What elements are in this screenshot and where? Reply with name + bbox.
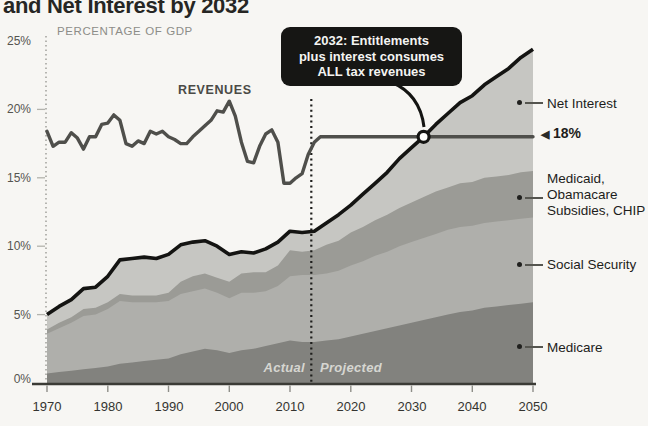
x-tick-label: 1990 [149, 399, 189, 414]
actual-label: Actual [247, 360, 305, 375]
projected-label: Projected [320, 360, 382, 375]
rate-marker-18: ◀18% [541, 125, 581, 141]
x-tick-label: 2020 [331, 399, 371, 414]
y-tick-label: 10% [0, 239, 31, 253]
rate-marker-value: 18% [553, 125, 581, 141]
leader-dot-icon [517, 195, 522, 200]
leader-line [525, 264, 543, 266]
x-tick-label: 1970 [27, 399, 67, 414]
y-tick-label: 0% [0, 372, 31, 386]
revenues-series-label: REVENUES [178, 83, 252, 97]
leader-line [525, 197, 543, 199]
y-tick-label: 15% [0, 171, 31, 185]
x-tick-label: 2040 [452, 399, 492, 414]
leader-dot-icon [517, 262, 522, 267]
budget-chart-figure: and Net Interest by 2032 PERCENTAGE OF G… [0, 0, 648, 426]
callout-2032: 2032: Entitlements plus interest consume… [281, 27, 462, 86]
x-tick-label: 2030 [392, 399, 432, 414]
legend-medicaid: Medicaid, Obamacare Subsidies, CHIP [547, 171, 645, 219]
y-tick-label: 20% [0, 102, 31, 116]
axis-unit-label: PERCENTAGE OF GDP [57, 25, 193, 37]
x-tick-label: 2050 [513, 399, 553, 414]
left-arrow-icon: ◀ [541, 128, 549, 140]
social-security-leader [517, 262, 545, 268]
net-interest-leader [517, 100, 545, 106]
x-tick-label: 1980 [88, 399, 128, 414]
chart-title: and Net Interest by 2032 [3, 0, 249, 19]
y-tick-label: 5% [0, 308, 31, 322]
leader-dot-icon [517, 344, 522, 349]
y-tick-label: 25% [0, 34, 31, 48]
x-tick-label: 2010 [270, 399, 310, 414]
medicare-leader [517, 344, 545, 350]
legend-social-security: Social Security [547, 257, 636, 273]
medicaid-leader [517, 195, 545, 201]
leader-dot-icon [517, 100, 522, 105]
x-tick-label: 2000 [209, 399, 249, 414]
legend-net-interest: Net Interest [547, 96, 617, 112]
leader-line [525, 346, 543, 348]
leader-line [525, 102, 543, 104]
legend-medicare: Medicare [547, 340, 603, 356]
